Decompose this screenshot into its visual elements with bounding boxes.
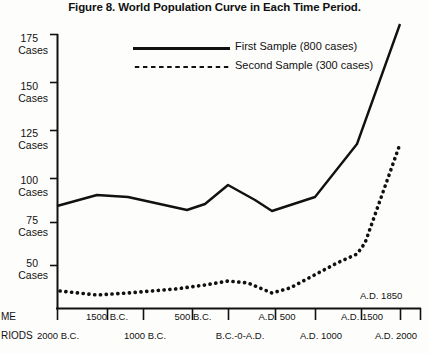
x-axis-label-500-bc: 500 B.C. bbox=[160, 311, 226, 322]
axis-caption-periods: RIODS bbox=[1, 330, 33, 341]
x-axis-label-ad-1500: A.D. 1500 bbox=[328, 311, 396, 322]
x-axis-label-1500-bc: 1500 B.C. bbox=[72, 311, 142, 322]
x-axis-label-ad-2000: A.D. 2000 bbox=[360, 330, 429, 341]
figure-container: Figure 8. World Population Curve in Each… bbox=[0, 0, 429, 354]
x-axis-label-ad-500: A.D. 500 bbox=[245, 311, 309, 322]
x-axis-label-ad-1000: A.D. 1000 bbox=[285, 330, 357, 341]
x-axis-label-bc-0-ad: B.C.-0-A.D. bbox=[197, 330, 283, 341]
x-axis-label-1000-bc: 1000 B.C. bbox=[110, 330, 180, 341]
series-line-second-sample bbox=[60, 144, 400, 295]
axis-caption-time: ME bbox=[1, 311, 16, 322]
annotation-ad-1850: A.D. 1850 bbox=[360, 290, 402, 301]
series-line-first-sample bbox=[57, 24, 400, 211]
